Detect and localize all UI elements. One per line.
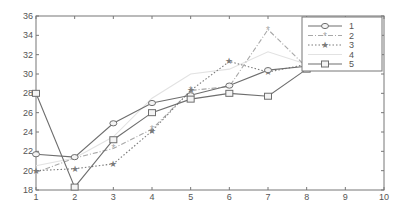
y-tick-label: 30 (23, 69, 33, 79)
circle-marker-icon (149, 100, 156, 105)
y-tick-label: 26 (23, 108, 33, 118)
y-tick-label: 34 (23, 30, 33, 40)
x-tick-label: 6 (227, 192, 232, 202)
star-marker-icon: ★ (32, 166, 40, 176)
legend-label: 1 (349, 21, 354, 31)
y-tick-label: 18 (23, 185, 33, 195)
x-tick-label: 8 (304, 192, 309, 202)
line-chart: 1234567891018202224262830323436 ********… (0, 0, 403, 208)
legend-label: 4 (349, 50, 354, 60)
legend-label: 3 (349, 40, 354, 50)
square-marker-icon (33, 90, 40, 96)
circle-marker-icon (265, 68, 272, 73)
x-tick-label: 4 (149, 192, 154, 202)
x-tick-label: 3 (111, 192, 116, 202)
y-tick-label: 22 (23, 146, 33, 156)
y-tick-label: 28 (23, 88, 33, 98)
legend-label: 2 (349, 31, 354, 41)
circle-marker-icon (33, 152, 40, 157)
star-marker-icon: ★ (71, 164, 79, 174)
circle-marker-icon (226, 83, 233, 88)
legend-box (302, 17, 382, 71)
asterisk-marker-icon: * (111, 143, 115, 154)
x-tick-label: 9 (343, 192, 348, 202)
x-tick-label: 5 (188, 192, 193, 202)
x-tick-label: 7 (265, 192, 270, 202)
y-tick-label: 32 (23, 50, 33, 60)
star-marker-icon: ★ (148, 126, 156, 136)
circle-marker-icon (71, 155, 78, 160)
circle-marker-icon (322, 23, 329, 28)
legend-label: 5 (349, 59, 354, 69)
square-marker-icon (265, 93, 272, 99)
y-tick-label: 36 (23, 11, 33, 21)
y-tick-label: 24 (23, 127, 33, 137)
star-marker-icon: ★ (109, 159, 117, 169)
x-tick-label: 1 (33, 192, 38, 202)
x-tick-label: 10 (379, 192, 389, 202)
star-marker-icon: ★ (321, 40, 329, 50)
star-marker-icon: ★ (225, 56, 233, 66)
square-marker-icon (71, 184, 78, 190)
legend: 1*2★345 (302, 17, 382, 71)
x-tick-label: 2 (72, 192, 77, 202)
square-marker-icon (149, 110, 156, 116)
circle-marker-icon (110, 121, 117, 126)
square-marker-icon (226, 90, 233, 96)
square-marker-icon (187, 96, 194, 102)
square-marker-icon (322, 61, 329, 67)
square-marker-icon (110, 137, 117, 143)
asterisk-marker-icon: * (266, 25, 270, 36)
